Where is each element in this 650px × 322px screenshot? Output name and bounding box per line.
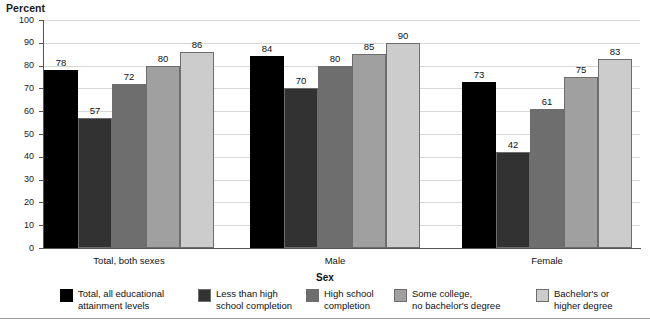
group-label: Female: [462, 255, 632, 266]
legend-item[interactable]: High schoolcompletion: [306, 288, 394, 311]
legend-label-line2: higher degree: [554, 300, 613, 312]
bar-value-label: 61: [530, 96, 564, 107]
plot-area: 785772808684708085907342617583: [44, 20, 640, 248]
legend-label-line2: no bachelor's degree: [412, 300, 500, 312]
legend-label-line1: Total, all educational: [78, 288, 164, 300]
legend-label: High schoolcompletion: [324, 288, 374, 311]
bar: [112, 84, 146, 248]
y-axis-tick-label: 60: [8, 106, 34, 116]
group-label: Total, both sexes: [44, 255, 214, 266]
bar: [352, 54, 386, 248]
bottom-divider: [0, 318, 650, 319]
y-axis-tick-label: 80: [8, 60, 34, 70]
y-axis-tick-label: 40: [8, 151, 34, 161]
y-axis-tick-label: 10: [8, 220, 34, 230]
bar: [44, 70, 78, 248]
x-axis-title: Sex: [0, 272, 650, 283]
bar: [386, 43, 420, 248]
bar-value-label: 42: [496, 139, 530, 150]
bar-value-label: 70: [284, 75, 318, 86]
bar: [284, 88, 318, 248]
y-axis-tick-label: 90: [8, 37, 34, 47]
gridline: [44, 43, 640, 44]
bar: [598, 59, 632, 248]
bar-chart: Percent 0102030405060708090100 785772808…: [0, 0, 650, 322]
legend-label: Some college,no bachelor's degree: [412, 288, 500, 311]
legend-item[interactable]: Bachelor's orhigher degree: [536, 288, 640, 311]
bar: [146, 66, 180, 248]
legend-item[interactable]: Less than highschool completion: [198, 288, 306, 311]
bar-value-label: 84: [250, 43, 284, 54]
bar-value-label: 73: [462, 69, 496, 80]
x-axis-line: [43, 248, 641, 249]
bar-value-label: 75: [564, 64, 598, 75]
bar: [530, 109, 564, 248]
bar-value-label: 90: [386, 30, 420, 41]
bar-value-label: 57: [78, 105, 112, 116]
y-axis-tick-label: 50: [8, 129, 34, 139]
chart-legend: Total, all educationalattainment levelsL…: [60, 288, 640, 311]
y-axis-tick-label: 100: [8, 15, 34, 25]
bar-value-label: 80: [318, 53, 352, 64]
gridline: [44, 20, 640, 21]
legend-label-line1: Some college,: [412, 288, 500, 300]
y-axis-tick-label: 0: [8, 243, 34, 253]
legend-label: Bachelor's orhigher degree: [554, 288, 613, 311]
legend-label: Less than highschool completion: [216, 288, 292, 311]
bar: [462, 82, 496, 248]
bar-value-label: 80: [146, 53, 180, 64]
bar-value-label: 85: [352, 41, 386, 52]
legend-swatch: [60, 289, 73, 302]
legend-item[interactable]: Total, all educationalattainment levels: [60, 288, 198, 311]
bar-value-label: 86: [180, 39, 214, 50]
bar: [496, 152, 530, 248]
y-axis-tick-label: 20: [8, 197, 34, 207]
legend-label-line2: school completion: [216, 300, 292, 312]
legend-label-line1: Bachelor's or: [554, 288, 613, 300]
legend-label: Total, all educationalattainment levels: [78, 288, 164, 311]
legend-label-line2: attainment levels: [78, 300, 164, 312]
bar: [318, 66, 352, 248]
bar: [564, 77, 598, 248]
legend-swatch: [394, 289, 407, 302]
y-axis-tick-label: 70: [8, 83, 34, 93]
legend-swatch: [306, 289, 319, 302]
bar: [78, 118, 112, 248]
bar-value-label: 78: [44, 57, 78, 68]
bar: [250, 56, 284, 248]
bar: [180, 52, 214, 248]
y-axis-tick-label: 30: [8, 174, 34, 184]
legend-swatch: [198, 289, 211, 302]
bar-value-label: 72: [112, 71, 146, 82]
legend-item[interactable]: Some college,no bachelor's degree: [394, 288, 536, 311]
y-axis-title: Percent: [6, 2, 45, 14]
legend-label-line2: completion: [324, 300, 374, 312]
legend-label-line1: High school: [324, 288, 374, 300]
legend-swatch: [536, 289, 549, 302]
group-label: Male: [250, 255, 420, 266]
legend-label-line1: Less than high: [216, 288, 292, 300]
bar-value-label: 83: [598, 46, 632, 57]
